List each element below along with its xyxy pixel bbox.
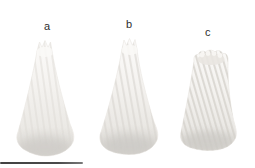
figure-canvas: a b c <box>0 0 255 168</box>
scale-bar <box>0 162 83 164</box>
cone-a-base-shadow <box>18 136 72 158</box>
cone-b-base-shadow <box>101 134 157 156</box>
specimen-a-photo <box>12 36 80 158</box>
specimen-b-photo <box>94 34 164 156</box>
specimen-c-photo <box>177 48 241 152</box>
panel-label-a: a <box>44 21 50 32</box>
panel-label-c: c <box>205 27 211 38</box>
panel-label-b: b <box>126 19 132 30</box>
cone-c-base-shadow <box>182 131 234 151</box>
